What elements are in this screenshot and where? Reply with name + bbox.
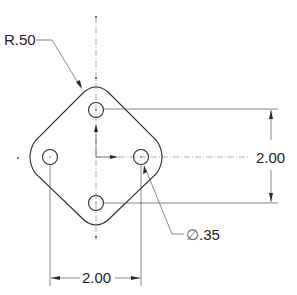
horizontal-dimension-label: 2.00: [82, 269, 111, 286]
diameter-value: .35: [199, 226, 220, 243]
hole-right-center: [140, 156, 141, 157]
diameter-label: ∅.35: [186, 226, 220, 243]
diameter-arrow-icon: [143, 165, 147, 174]
origin-arrow-right-icon: [110, 155, 118, 159]
hole-left-center: [49, 156, 50, 157]
hole-top-center: [95, 109, 96, 110]
radius-leader-diagonal: [52, 40, 80, 86]
diameter-leader-diagonal: [146, 170, 172, 234]
radius-label: R.50: [4, 31, 36, 48]
centerline-end-dot-left: [17, 157, 19, 159]
dim-arrow-left-icon: [51, 276, 60, 280]
dim-arrow-down-icon: [269, 193, 273, 202]
diameter-symbol: ∅: [186, 226, 199, 243]
centerline-mark-dot: [95, 77, 97, 79]
vertical-dimension-label: 2.00: [256, 149, 285, 166]
dim-arrow-right-icon: [131, 276, 140, 280]
engineering-drawing: 2.00 2.00 R.50 ∅.35: [0, 0, 297, 295]
origin-arrow-up-icon: [94, 124, 98, 132]
centerline-end-dot-bottom: [95, 236, 97, 238]
hole-bottom-center: [95, 202, 96, 203]
dim-arrow-up-icon: [269, 110, 273, 119]
centerline-end-dot-top: [95, 16, 97, 18]
